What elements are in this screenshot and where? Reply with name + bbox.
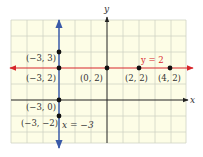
point-label-neg3-0: (−3, 0) (26, 102, 56, 112)
point-neg3-0 (57, 98, 62, 103)
point-label-2-2: (2, 2) (125, 73, 148, 83)
point-4-2 (168, 66, 173, 71)
point-label-neg3-3: (−3, 3) (26, 53, 56, 63)
point-neg3-2 (57, 66, 62, 71)
y-axis-label: y (103, 4, 110, 14)
point-0-2 (105, 66, 110, 71)
point-label-neg3-neg2: (−3, −2) (21, 118, 58, 128)
point-label-neg3-2: (−3, 2) (26, 73, 56, 83)
point-neg3-3 (57, 50, 62, 55)
coordinate-plane: x y y = 2 x = −3 (−3, 3) (−3, 2) (0, 2) … (0, 0, 203, 157)
line-x-equals-neg3-label: x = −3 (62, 120, 94, 130)
x-axis-label: x (190, 95, 195, 105)
point-2-2 (137, 66, 142, 71)
coordinate-plane-figure: x y y = 2 x = −3 (−3, 3) (−3, 2) (0, 2) … (0, 0, 203, 157)
point-label-4-2: (4, 2) (158, 73, 181, 83)
point-label-0-2: (0, 2) (80, 73, 103, 83)
line-y-equals-2-label: y = 2 (140, 55, 164, 65)
